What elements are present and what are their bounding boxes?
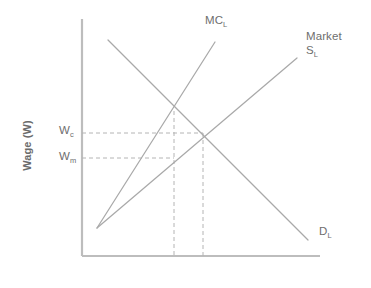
y-axis-title: Wage (W) [21, 106, 34, 186]
marginal-cost-curve-mc-l [97, 42, 215, 228]
curve-label-mc-l-text: MC [205, 14, 223, 26]
y-tick-label-w-c-text: W [59, 124, 70, 136]
demand-curve-d-l [108, 40, 308, 240]
supply-curve-s-l [97, 58, 297, 228]
curve-label-s-l-line: SL [306, 44, 342, 57]
curve-label-d-l-subscript: L [327, 231, 331, 240]
curve-label-mc-l-subscript: L [223, 20, 227, 29]
y-tick-label-w-c-subscript: c [70, 130, 74, 139]
y-tick-label-w-m: Wm [59, 150, 76, 163]
curve-label-d-l: DL [319, 225, 332, 238]
curve-label-market-text: Market [306, 30, 342, 42]
curve-label-mc-l: MCL [205, 14, 227, 27]
y-tick-label-w-m-subscript: m [70, 156, 76, 165]
y-tick-label-w-m-text: W [59, 150, 70, 162]
curve-label-s-l-text: S [306, 44, 314, 56]
y-tick-label-w-c: Wc [59, 124, 74, 137]
curve-label-s-l-subscript: L [314, 50, 318, 59]
economics-diagram: MCL MarketSL DL Wc Wm Wage (W) [0, 0, 371, 288]
curve-label-market-s-l: MarketSL [306, 30, 342, 57]
